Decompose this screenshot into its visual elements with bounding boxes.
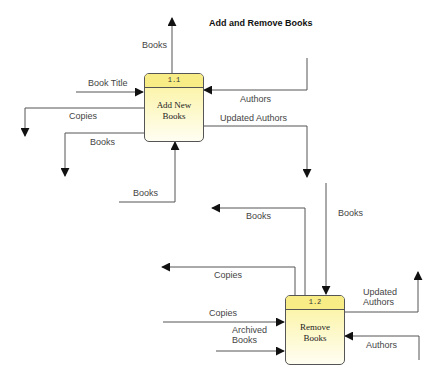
label-p2-archived-books: Archived Books (232, 325, 267, 345)
label-p2-copies-in: Copies (209, 308, 237, 318)
label-books-out-left: Books (90, 137, 115, 147)
flow-p2-books-out (212, 208, 305, 295)
label-book-title: Book Title (88, 78, 128, 88)
label-p2-books-in: Books (338, 208, 363, 218)
label-authors-in: Authors (240, 94, 271, 104)
label-p2-authors-in: Authors (366, 340, 397, 350)
flow-updated-authors-out (203, 126, 307, 177)
label-p2-books-out: Books (246, 211, 271, 221)
diagram-title: Add and Remove Books (209, 18, 313, 28)
process-add-new-books[interactable]: 1.1 Add New Books (144, 73, 204, 142)
process-remove-books[interactable]: 1.2 Remove Books (285, 295, 345, 365)
label-p2-copies-out: Copies (214, 270, 242, 280)
process-name: Remove Books (286, 322, 344, 344)
process-id: 1.1 (145, 74, 203, 88)
diagram-canvas (0, 0, 436, 375)
flow-authors-in (204, 58, 307, 90)
label-copies-out: Copies (69, 111, 97, 121)
label-updated-authors: Updated Authors (220, 113, 287, 123)
label-books-in-bottom: Books (133, 188, 158, 198)
label-p2-updated-authors: Updated Authors (363, 287, 397, 307)
process-id: 1.2 (286, 296, 344, 310)
label-books-up: Books (142, 40, 167, 50)
process-name: Add New Books (145, 100, 203, 122)
